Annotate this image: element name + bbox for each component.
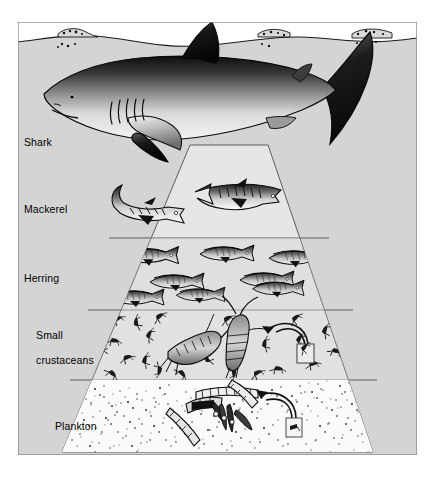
level-label-small-crustaceans: Small crustaceans (24, 316, 94, 379)
pyramid-illustration (0, 0, 435, 479)
level-label-plankton: Plankton (55, 420, 97, 433)
level-label-small-crustaceans-line2: crustaceans (36, 354, 94, 366)
plankton-group (60, 380, 382, 463)
level-label-shark: Shark (24, 136, 52, 149)
food-pyramid-figure: Shark Mackerel Herring Small crustaceans… (0, 0, 435, 479)
level-label-small-crustaceans-line1: Small (36, 329, 63, 341)
level-label-mackerel: Mackerel (24, 203, 67, 216)
level-label-herring: Herring (24, 272, 59, 285)
shark-eye (70, 95, 74, 99)
